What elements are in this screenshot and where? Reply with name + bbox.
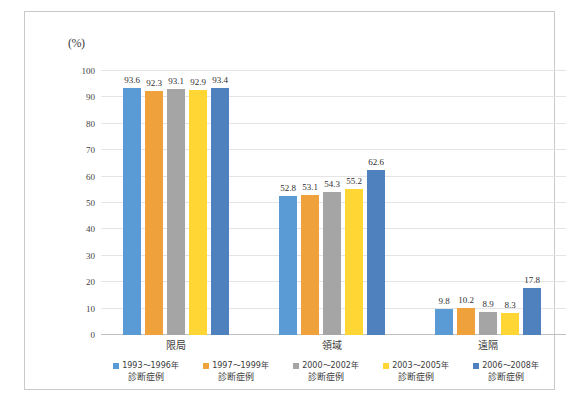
bar-value-label: 93.4 — [212, 76, 228, 85]
bar[interactable] — [323, 192, 341, 335]
bar-value-label: 54.3 — [324, 180, 340, 189]
legend-item-sublabel: 診断症例 — [218, 371, 254, 384]
x-axis-category-label: 遠隔 — [478, 340, 498, 352]
bar[interactable] — [189, 90, 207, 335]
legend-item-row-primary: 2000～2002年 — [293, 361, 359, 370]
legend-item-row-primary: 1997～1999年 — [203, 361, 269, 370]
legend-item-row-primary: 1993～1996年 — [113, 361, 179, 370]
legend-color-swatch-icon — [383, 363, 389, 369]
chart-frame: (%) 1009080706050403020100 93.692.393.19… — [24, 11, 555, 390]
bar-group: 93.692.393.192.993.4 — [123, 71, 229, 335]
bar-value-label: 53.1 — [302, 183, 318, 192]
legend-color-swatch-icon — [113, 363, 119, 369]
y-axis-tick-labels: 1009080706050403020100 — [69, 71, 95, 335]
legend-color-swatch-icon — [473, 363, 479, 369]
bar[interactable] — [167, 89, 185, 335]
bar-group: 52.853.154.355.262.6 — [279, 71, 385, 335]
bar-value-label: 93.6 — [124, 76, 140, 85]
bar[interactable] — [211, 88, 229, 335]
legend-item-sublabel: 診断症例 — [398, 371, 434, 384]
legend-item[interactable]: 2006～2008年診断症例 — [461, 361, 551, 384]
bar[interactable] — [479, 312, 497, 335]
bar-column[interactable]: 52.8 — [279, 71, 297, 335]
bar-column[interactable]: 93.6 — [123, 71, 141, 335]
bar[interactable] — [435, 309, 453, 335]
bar-value-label: 92.9 — [190, 78, 206, 87]
bar[interactable] — [345, 189, 363, 335]
legend-item-sublabel: 診断症例 — [308, 371, 344, 384]
bar-column[interactable]: 93.4 — [211, 71, 229, 335]
bar-value-label: 93.1 — [168, 77, 184, 86]
bar-column[interactable]: 93.1 — [167, 71, 185, 335]
bar[interactable] — [457, 308, 475, 335]
bar[interactable] — [367, 170, 385, 335]
legend-item-label: 2000～2002年 — [302, 361, 359, 370]
bar-value-label: 17.8 — [524, 276, 540, 285]
bar[interactable] — [501, 313, 519, 335]
plot-area: 93.692.393.192.993.452.853.154.355.262.6… — [101, 71, 566, 335]
bar-value-label: 52.8 — [280, 184, 296, 193]
legend-item[interactable]: 1993～1996年診断症例 — [101, 361, 191, 384]
legend-item[interactable]: 2003～2005年診断症例 — [371, 361, 461, 384]
legend-color-swatch-icon — [203, 363, 209, 369]
legend-item-row-primary: 2006～2008年 — [473, 361, 539, 370]
bar-value-label: 9.8 — [438, 297, 449, 306]
bar-group: 9.810.28.98.317.8 — [435, 71, 541, 335]
bar-column[interactable]: 8.9 — [479, 71, 497, 335]
legend-item-label: 1997～1999年 — [212, 361, 269, 370]
x-axis-category-label: 領域 — [322, 340, 342, 352]
bar-column[interactable]: 92.3 — [145, 71, 163, 335]
bar-column[interactable]: 9.8 — [435, 71, 453, 335]
bar-column[interactable]: 55.2 — [345, 71, 363, 335]
x-axis-category-label: 限局 — [166, 340, 186, 352]
bar-column[interactable]: 8.3 — [501, 71, 519, 335]
legend-item[interactable]: 1997～1999年診断症例 — [191, 361, 281, 384]
legend-item-sublabel: 診断症例 — [488, 371, 524, 384]
bar-value-label: 62.6 — [368, 158, 384, 167]
bar[interactable] — [523, 288, 541, 335]
bar-column[interactable]: 17.8 — [523, 71, 541, 335]
bar-value-label: 8.3 — [504, 301, 515, 310]
bar[interactable] — [145, 91, 163, 335]
bar[interactable] — [301, 195, 319, 335]
legend-item-label: 1993～1996年 — [122, 361, 179, 370]
legend-item-sublabel: 診断症例 — [128, 371, 164, 384]
legend-color-swatch-icon — [293, 363, 299, 369]
bar-column[interactable]: 62.6 — [367, 71, 385, 335]
bar[interactable] — [279, 196, 297, 335]
legend-item-label: 2003～2005年 — [392, 361, 449, 370]
legend-item-row-primary: 2003～2005年 — [383, 361, 449, 370]
bar-column[interactable]: 10.2 — [457, 71, 475, 335]
chart-legend: 1993～1996年診断症例1997～1999年診断症例2000～2002年診断… — [101, 361, 551, 384]
bar-column[interactable]: 92.9 — [189, 71, 207, 335]
bar-column[interactable]: 54.3 — [323, 71, 341, 335]
bar[interactable] — [123, 88, 141, 335]
bar-value-label: 10.2 — [458, 296, 474, 305]
y-axis-unit-label: (%) — [68, 36, 85, 51]
legend-item-label: 2006～2008年 — [482, 361, 539, 370]
legend-item[interactable]: 2000～2002年診断症例 — [281, 361, 371, 384]
bar-column[interactable]: 53.1 — [301, 71, 319, 335]
bar-value-label: 92.3 — [146, 79, 162, 88]
bar-value-label: 55.2 — [346, 177, 362, 186]
bar-value-label: 8.9 — [482, 300, 493, 309]
